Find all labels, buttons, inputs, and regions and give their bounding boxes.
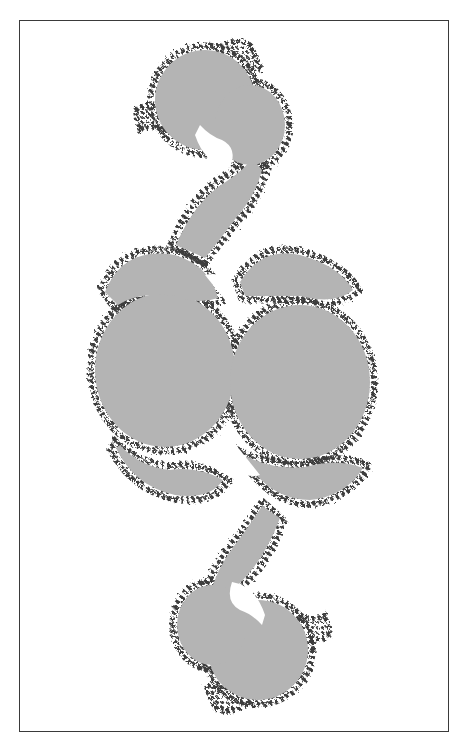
- julia-set-fractal: [0, 0, 463, 752]
